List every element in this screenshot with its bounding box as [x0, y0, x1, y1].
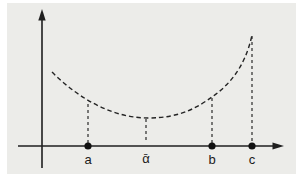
- axis-label-b: b: [208, 153, 215, 167]
- axis-label-alpha-bar: ᾱ: [142, 152, 150, 166]
- function-curve: [52, 35, 252, 118]
- y-axis-arrow-icon: [38, 9, 45, 21]
- figure-container: a ᾱ b c: [0, 0, 300, 179]
- axis-label-a: a: [84, 153, 91, 167]
- point-dot-b: [208, 142, 215, 149]
- point-dot-a: [84, 142, 91, 149]
- point-dot-c: [248, 142, 255, 149]
- axis-label-c: c: [249, 153, 256, 167]
- x-axis-arrow-icon: [273, 142, 285, 149]
